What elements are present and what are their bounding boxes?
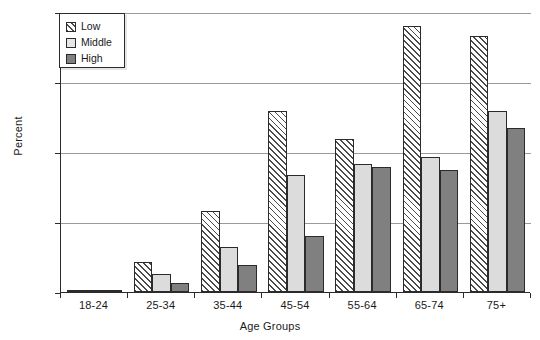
bar-middle-45-54 [287,175,306,292]
legend-item-low: Low [66,19,124,34]
bar-low-18-24 [67,290,86,292]
x-tick-mark [463,293,464,298]
bar-high-18-24 [104,290,123,292]
bar-high-45-54 [305,236,324,292]
x-tick-mark [127,293,128,298]
bar-low-25-34 [134,262,153,292]
legend-item-high: High [66,51,124,66]
bar-low-55-64 [335,139,354,292]
legend-label: Middle [81,37,112,48]
bar-middle-55-64 [354,164,373,292]
x-tick-mark [396,293,397,298]
legend-label: Low [81,21,100,32]
bar-middle-35-44 [220,247,239,292]
bar-high-25-34 [171,283,190,292]
legend-label: High [81,53,103,64]
bar-low-65-74 [403,26,422,292]
bar-chart: Percent Age Groups 010203040 18-2425-343… [0,0,540,340]
x-tick-mark [530,293,531,298]
bar-middle-75+ [488,111,507,292]
plot-area [60,13,530,293]
chart-legend: LowMiddleHigh [59,13,125,68]
legend-swatch-low-icon [66,22,76,32]
x-axis-title: Age Groups [0,320,540,332]
x-tick-mark [60,293,61,298]
legend-swatch-high-icon [66,54,76,64]
bar-middle-65-74 [421,157,440,292]
bar-high-65-74 [440,170,459,292]
x-tick-mark [329,293,330,298]
y-axis-title: Percent [12,96,24,176]
bar-high-55-64 [372,167,391,292]
bar-low-35-44 [201,211,220,292]
bar-low-75+ [470,36,489,292]
bar-high-75+ [507,128,526,292]
gridline [61,83,531,84]
bar-middle-18-24 [85,290,104,292]
legend-item-middle: Middle [66,35,124,50]
legend-swatch-middle-icon [66,38,76,48]
bar-middle-25-34 [152,274,171,292]
gridline [61,13,531,14]
x-tick-mark [261,293,262,298]
bar-low-45-54 [268,111,287,292]
bar-high-35-44 [238,265,257,292]
gridline [61,153,531,154]
x-tick-label-75+: 75+ [456,299,536,311]
x-tick-mark [194,293,195,298]
